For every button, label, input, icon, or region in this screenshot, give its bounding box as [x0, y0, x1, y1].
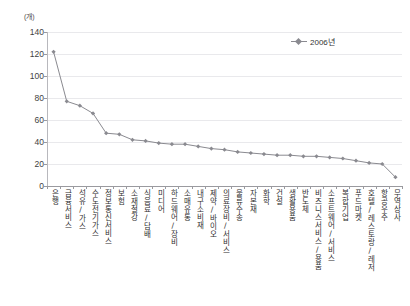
legend-label: 2006년: [310, 36, 335, 47]
line-chart: (개) 020406080100120140 2006년 은행금융서비스석유/가…: [0, 0, 410, 306]
x-axis-category-label: 푸드마켓: [352, 189, 361, 221]
y-axis-tick-label: 20: [18, 160, 44, 168]
series-2006: [47, 32, 403, 188]
x-axis-category-label: 호텔/레스토랑/레저: [365, 189, 374, 271]
x-axis-category-label: 건설: [273, 189, 282, 205]
x-axis-category-label: 정보통신서비스: [102, 189, 111, 245]
data-point-marker: [117, 132, 121, 136]
x-axis-category-label: 소매유통: [181, 189, 190, 221]
x-axis-category-label: 무역상사: [391, 189, 400, 221]
data-point-marker: [314, 154, 318, 158]
x-axis-category-label: 자본재: [247, 189, 256, 213]
data-point-marker: [367, 161, 371, 165]
data-point-marker: [354, 159, 358, 163]
y-axis-tick-label: 120: [18, 50, 44, 58]
data-point-marker: [249, 151, 253, 155]
y-axis-tick-label: 60: [18, 116, 44, 124]
y-axis-tick-label: 100: [18, 72, 44, 80]
chart-legend[interactable]: 2006년: [291, 36, 335, 47]
data-point-marker: [209, 146, 213, 150]
y-axis-tick-label: 0: [18, 182, 44, 190]
data-point-marker: [222, 148, 226, 152]
x-axis-category-label: 생활용품: [286, 189, 295, 221]
data-point-marker: [301, 154, 305, 158]
x-axis-category-label: 소재철강: [128, 189, 137, 221]
y-axis-unit-label: (개): [24, 11, 35, 21]
x-axis-category-label: 항공우주: [378, 189, 387, 221]
x-axis-category-label: 식음료/담배: [141, 189, 150, 238]
data-point-marker: [183, 142, 187, 146]
x-axis-category-label: 금융서비스: [62, 189, 71, 229]
x-axis-category-label: 반도체: [299, 189, 308, 213]
data-point-marker: [196, 144, 200, 148]
x-axis-category-label: 은행: [49, 189, 58, 205]
data-point-marker: [341, 156, 345, 160]
x-axis-category-label: 비즈니스서비스/용품: [312, 189, 321, 270]
x-axis-category-label: 석유/가스: [76, 189, 85, 230]
x-axis-category-label: 미디어: [155, 189, 164, 213]
y-axis-tick-labels: 020406080100120140: [16, 32, 44, 187]
x-axis-category-label: 수도전기가스: [89, 189, 98, 237]
data-point-marker: [65, 99, 69, 103]
x-axis-category-label: 복합기업: [339, 189, 348, 221]
x-axis-category-labels: 은행금융서비스석유/가스수도전기가스정보통신서비스보험소재철강식음료/담배미디어…: [47, 189, 403, 301]
x-axis-category-label: 화학: [260, 189, 269, 205]
data-point-marker: [275, 153, 279, 157]
x-axis-category-label: 물류수송: [233, 189, 242, 221]
data-point-marker: [262, 152, 266, 156]
data-point-marker: [143, 139, 147, 143]
x-axis-category-label: 하드웨어/장비: [168, 189, 177, 246]
y-axis-tick-label: 40: [18, 138, 44, 146]
data-point-marker: [170, 142, 174, 146]
data-point-marker: [157, 141, 161, 145]
data-point-marker: [236, 150, 240, 154]
data-point-marker: [328, 155, 332, 159]
y-axis-tick-label: 80: [18, 94, 44, 102]
data-point-marker: [288, 153, 292, 157]
x-axis-category-label: 내구소비재: [194, 189, 203, 229]
x-axis-category-label: 의료장비/서비스: [220, 189, 229, 254]
x-axis-category-label: 보험: [115, 189, 124, 205]
y-axis-tick-label: 140: [18, 28, 44, 36]
data-point-marker: [130, 138, 134, 142]
x-axis-category-label: 제약/바이오: [207, 189, 216, 238]
x-axis-category-label: 소프트웨어/서비스: [325, 189, 334, 262]
data-point-marker: [78, 104, 82, 108]
data-point-marker: [51, 50, 55, 54]
legend-marker-icon: [291, 41, 307, 42]
